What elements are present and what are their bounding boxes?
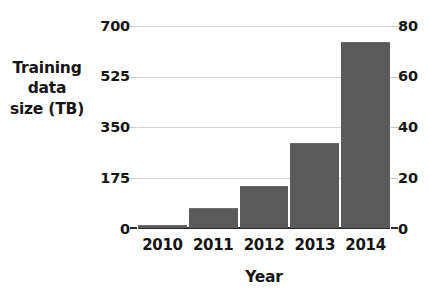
y-axis-left-tick-700: 700	[100, 19, 130, 34]
y-axis-left-tick-mark-350	[130, 127, 137, 128]
y-axis-right-tick-20: 20	[398, 171, 418, 186]
y-axis-title-line-1: Training	[4, 58, 90, 78]
bar-2013[interactable]	[290, 143, 339, 228]
y-axis-right-tick-mark-175	[391, 178, 398, 179]
y-axis-left-tick-mark-175	[130, 178, 137, 179]
bar-series	[138, 26, 390, 228]
y-axis-right-tick-mark-700	[391, 26, 398, 27]
bar-slot-2014	[341, 26, 390, 228]
y-axis-left-tick-mark-525	[130, 77, 137, 78]
y-axis-right-tick-0: 0	[398, 222, 408, 237]
x-axis-tick-2010: 2010	[138, 236, 187, 254]
y-axis-left-tick-0: 0	[120, 222, 130, 237]
y-axis-right: 80 60 40 20 0	[398, 0, 429, 301]
y-axis-left: 700 525 350 175 0	[86, 0, 130, 301]
x-axis-tick-2014: 2014	[341, 236, 390, 254]
y-axis-right-tick-mark-0	[391, 227, 398, 229]
bar-chart: Training data size (TB) 700 525 350 175 …	[0, 0, 429, 301]
y-axis-left-tick-350: 350	[100, 120, 130, 135]
y-axis-left-tick-mark-0	[130, 227, 137, 229]
x-axis-tick-labels: 20102011201220132014	[138, 236, 390, 254]
y-axis-title-line-2: data	[4, 78, 90, 98]
y-axis-right-tick-60: 60	[398, 69, 418, 84]
x-axis-title: Year	[138, 268, 390, 286]
bar-2012[interactable]	[240, 186, 289, 228]
plot-area	[138, 26, 390, 228]
bar-slot-2011	[189, 26, 238, 228]
x-axis-tick-2013: 2013	[290, 236, 339, 254]
y-axis-right-tick-mark-350	[391, 127, 398, 128]
y-axis-title-line-3: size (TB)	[4, 99, 90, 119]
bar-slot-2012	[240, 26, 289, 228]
y-axis-right-tick-80: 80	[398, 19, 418, 34]
y-axis-right-tick-mark-525	[391, 77, 398, 78]
x-axis-tick-2012: 2012	[240, 236, 289, 254]
bar-2011[interactable]	[189, 208, 238, 228]
y-axis-left-tick-mark-700	[130, 26, 137, 27]
bar-slot-2010	[138, 26, 187, 228]
y-axis-left-tick-175: 175	[100, 171, 130, 186]
y-axis-left-tick-525: 525	[100, 69, 130, 84]
bar-slot-2013	[290, 26, 339, 228]
x-axis-tick-2011: 2011	[189, 236, 238, 254]
bar-2014[interactable]	[341, 42, 390, 228]
y-axis-right-tick-40: 40	[398, 120, 418, 135]
bar-2010[interactable]	[138, 225, 187, 228]
y-axis-title: Training data size (TB)	[4, 58, 90, 119]
